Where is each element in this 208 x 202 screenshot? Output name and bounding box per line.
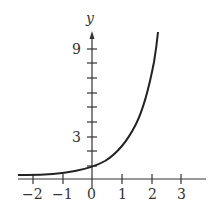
x-tick-label-neg2: −2 xyxy=(22,186,43,202)
x-tick-label-1: 1 xyxy=(118,186,127,202)
x-tick-label-3: 3 xyxy=(177,186,186,202)
curve xyxy=(18,32,158,175)
x-tick-label-2: 2 xyxy=(148,186,157,202)
exponential-chart: y 9 3 −2 −1 0 1 2 3 xyxy=(0,0,208,202)
y-axis xyxy=(90,31,95,188)
y-tick-label-9: 9 xyxy=(72,41,81,57)
y-tick-label-3: 3 xyxy=(72,129,81,145)
y-axis-label: y xyxy=(85,10,95,26)
x-tick-label-0: 0 xyxy=(87,186,96,202)
x-tick-label-neg1: −1 xyxy=(52,186,73,202)
